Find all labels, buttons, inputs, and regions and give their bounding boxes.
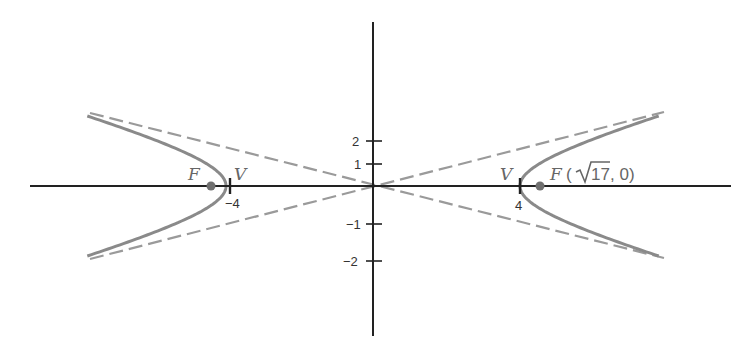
focus-right-letter: F [549,164,563,184]
vertex-right-label: V [500,164,514,184]
y-tick-label-neg1: −1 [346,217,361,232]
focus-left-label: F [187,164,201,184]
y-tick-label-2: 2 [352,134,359,149]
focus-right-radicand: 17 [591,165,610,184]
vertex-left-label: V [234,164,248,184]
hyperbola-diagram: 2 1 −1 −2 −4 4 F V V F ( 17 , 0) [0,0,754,356]
focus-right-point [536,182,545,191]
x-tick-label-neg4: −4 [225,196,240,211]
focus-left-point [207,182,216,191]
y-tick-label-neg2: −2 [343,254,358,269]
focus-right-open-paren: ( [566,165,572,184]
focus-right-close: , 0) [610,165,635,184]
y-tick-label-1: 1 [354,157,361,172]
x-tick-label-4: 4 [515,198,522,213]
